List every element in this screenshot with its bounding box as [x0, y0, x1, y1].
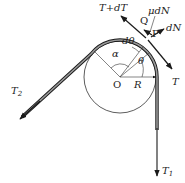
belt-pulley-diagram: T+dT μdN Q dN P T dθ α θ O R T2 T1	[0, 0, 185, 183]
mudn-arrow	[144, 30, 152, 35]
label-t2-sub: 2	[17, 90, 23, 98]
label-dtheta: dθ	[122, 35, 134, 46]
label-p: P	[152, 28, 159, 39]
t2-arrow	[20, 101, 40, 119]
label-t: T	[172, 76, 180, 87]
label-theta: θ	[138, 55, 144, 66]
dtheta-arc	[132, 47, 139, 52]
label-dn: dN	[166, 22, 182, 33]
label-t-plus-dt: T+dT	[99, 2, 128, 13]
label-t1: T1	[162, 165, 173, 178]
label-o: O	[113, 79, 121, 90]
label-t2: T2	[11, 85, 23, 98]
t-arrow	[148, 40, 172, 69]
radius-to-p	[120, 53, 149, 77]
label-alpha: α	[112, 48, 119, 59]
label-r: R	[133, 79, 142, 90]
label-q: Q	[140, 15, 148, 26]
label-t1-sub: 1	[169, 170, 173, 178]
label-mudn: μdN	[148, 5, 171, 16]
alpha-arc	[111, 64, 129, 68]
